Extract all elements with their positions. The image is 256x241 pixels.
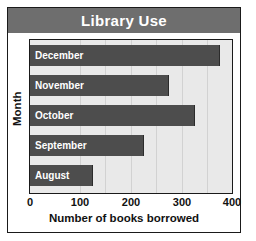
bar-december[interactable]: December [30, 45, 220, 66]
bar-november[interactable]: November [30, 75, 169, 96]
xtick-label-300: 300 [162, 197, 202, 208]
page-title: Library Use [81, 13, 167, 28]
bar-label: September [30, 141, 87, 151]
plot-area: December November October September Augu… [29, 39, 233, 194]
xtick-label-100: 100 [60, 197, 100, 208]
bar-october[interactable]: October [30, 105, 195, 126]
bar-label: December [30, 51, 83, 61]
bar-label: October [30, 111, 73, 121]
chart-title-banner: Library Use [8, 8, 240, 33]
x-axis-title: Number of books borrowed [8, 213, 240, 225]
bar-september[interactable]: September [30, 135, 144, 156]
bar-august[interactable]: August [30, 165, 93, 186]
xtick-label-400: 400 [212, 197, 252, 208]
bar-label: August [30, 171, 69, 181]
xtick-label-0: 0 [10, 197, 50, 208]
y-axis-title: Month [12, 81, 24, 137]
bar-label: November [30, 81, 84, 91]
chart-figure: Library Use December November October Se… [7, 7, 241, 233]
xtick-label-200: 200 [111, 197, 151, 208]
